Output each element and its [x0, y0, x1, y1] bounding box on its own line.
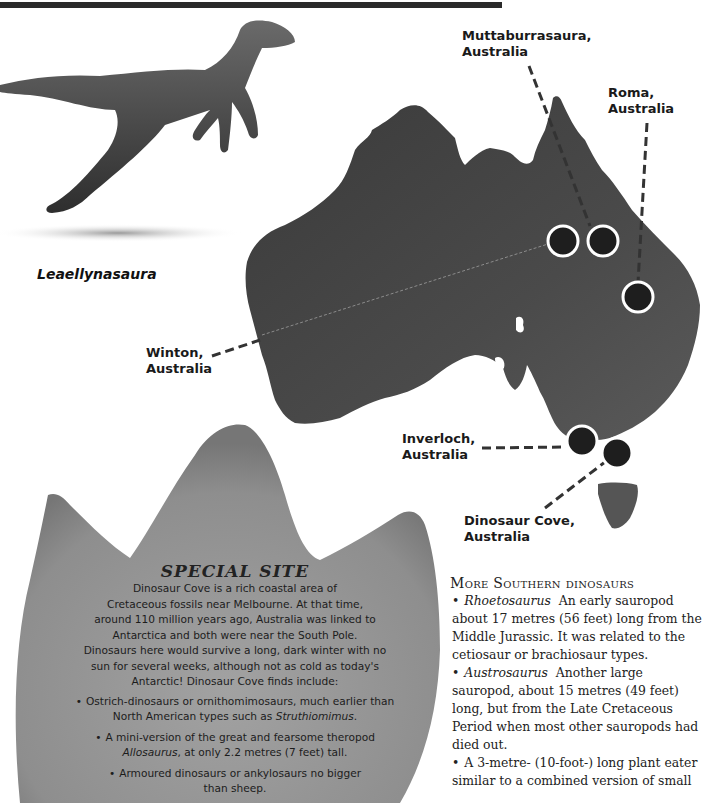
dinosaur-name: Austrosaurus [464, 665, 548, 680]
ground-shadow [0, 224, 243, 242]
label-line: Dinosaur Cove, [464, 513, 575, 529]
leader-winton [212, 340, 260, 356]
dinosaur-name: Rhoetosaurus [464, 593, 551, 608]
item-text: A mini-version of the great and fearsome… [105, 731, 374, 743]
label-line: Inverloch, [402, 431, 475, 447]
label-winton: Winton, Australia [146, 345, 212, 377]
marker-muttaburrasaura [588, 226, 618, 256]
special-site-body: Dinosaur Cove is a rich coastal area of … [30, 581, 440, 690]
lake-eyre [516, 317, 524, 333]
bullet-icon: • [109, 767, 115, 779]
item-text: than sheep. [204, 782, 267, 794]
item-text: . [354, 710, 357, 722]
bullet-icon: • [452, 665, 459, 680]
dinosaur-body [0, 20, 295, 213]
label-dinosaur-cove: Dinosaur Cove, Australia [464, 513, 575, 545]
label-inverloch: Inverloch, Australia [402, 431, 475, 463]
body-line: sun for several weeks, although not as c… [30, 659, 440, 675]
bullet-icon: • [452, 593, 459, 608]
bullet-icon: • [452, 755, 459, 770]
label-line: Winton, [146, 345, 212, 361]
body-line: Dinosaur Cove is a rich coastal area of [30, 581, 440, 597]
dinosaur-list: •Rhoetosaurus An early sauropod about 17… [450, 592, 702, 790]
marker-dinosaur-cove [602, 438, 632, 468]
item-text: , at only 2.2 metres (7 feet) tall. [178, 746, 348, 758]
label-roma: Roma, Australia [608, 85, 674, 117]
more-southern-dinosaurs: More Southern dinosaurs •Rhoetosaurus An… [450, 574, 702, 790]
special-site-panel: SPECIAL SITE Dinosaur Cove is a rich coa… [30, 561, 440, 802]
tasmania [598, 483, 638, 529]
list-item: •Rhoetosaurus An early sauropod about 17… [450, 592, 702, 664]
body-line: Dinosaurs here would survive a long, dar… [30, 643, 440, 659]
label-muttaburrasaura: Muttaburrasaura, Australia [462, 28, 591, 60]
dinosaur-description: A 3-metre- (10-foot-) long plant eater s… [452, 755, 697, 788]
label-line: Australia [608, 101, 674, 117]
bullet-icon: • [76, 695, 82, 707]
list-item: •Armoured dinosaurs or ankylosaurs no bi… [30, 766, 440, 797]
marker-roma [623, 282, 653, 312]
item-species: Struthiomimus [276, 710, 354, 722]
body-line: around 110 million years ago, Australia … [30, 612, 440, 628]
item-text: North American types such as [113, 710, 276, 722]
special-site-title: SPECIAL SITE [30, 561, 440, 581]
special-site-finds: •Ostrich-dinosaurs or ornithomimosaurs, … [30, 694, 440, 797]
list-item: •A 3-metre- (10-foot-) long plant eater … [450, 754, 702, 790]
label-line: Muttaburrasaura, [462, 28, 591, 44]
marker-winton [548, 226, 578, 256]
item-species: Allosaurus [123, 746, 178, 758]
bullet-icon: • [95, 731, 101, 743]
leader-dinosaur-cove [545, 462, 605, 508]
body-line: Antarctic! Dinosaur Cove finds include: [30, 674, 440, 690]
label-line: Australia [464, 529, 575, 545]
body-line: Cretaceous fossils near Melbourne. At th… [30, 597, 440, 613]
body-line: Antarctica and both were near the South … [30, 628, 440, 644]
label-line: Roma, [608, 85, 674, 101]
label-line: Australia [462, 44, 591, 60]
list-item: •Ostrich-dinosaurs or ornithomimosaurs, … [30, 694, 440, 725]
leader-inverloch [482, 447, 566, 448]
label-line: Australia [146, 361, 212, 377]
leaellynasaura-illustration [0, 20, 295, 242]
label-line: Australia [402, 447, 475, 463]
section-title: More Southern dinosaurs [450, 574, 702, 592]
list-item: •A mini-version of the great and fearsom… [30, 730, 440, 761]
marker-inverloch [567, 426, 597, 456]
item-text: Armoured dinosaurs or ankylosaurs no big… [119, 767, 361, 779]
list-item: •Austrosaurus Another large sauropod, ab… [450, 664, 702, 754]
item-text: Ostrich-dinosaurs or ornithomimosaurs, m… [86, 695, 394, 707]
australia-map [246, 96, 700, 528]
illustration-caption: Leaellynasaura [37, 266, 157, 282]
